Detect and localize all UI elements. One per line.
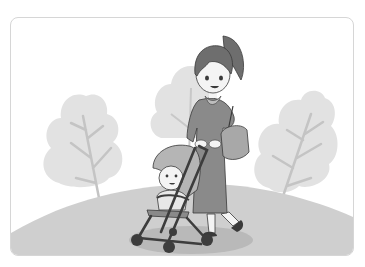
left-tree-icon bbox=[43, 94, 122, 198]
illustration-frame: Mother pushing a baby in a stroller thro… bbox=[10, 17, 354, 256]
park-stroller-illustration bbox=[11, 18, 354, 256]
